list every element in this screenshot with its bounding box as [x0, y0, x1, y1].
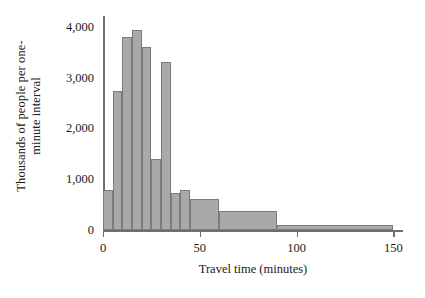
histogram-bar: [161, 62, 171, 230]
histogram-bar: [277, 225, 393, 231]
x-tick-mark: [297, 232, 298, 237]
histogram-bar: [180, 190, 190, 231]
histogram-bar: [151, 159, 161, 230]
y-tick-label: 3,000: [48, 72, 94, 85]
histogram-bar: [113, 91, 123, 231]
y-tick-label-group: 01,0002,0003,0004,000: [48, 0, 94, 298]
x-tick-group: [103, 232, 403, 238]
y-tick-label: 0: [48, 224, 94, 237]
x-tick-label: 100: [287, 241, 306, 255]
y-tick-label: 4,000: [48, 21, 94, 34]
histogram-bar: [219, 211, 277, 230]
x-tick-label: 50: [194, 241, 207, 255]
bar-group: [103, 16, 403, 230]
y-axis-title-line2: minute interval: [29, 77, 44, 155]
y-tick-label: 2,000: [48, 122, 94, 135]
x-tick-label-group: 050100150: [103, 241, 403, 259]
histogram-bar: [122, 37, 132, 230]
x-tick-mark: [103, 232, 104, 237]
y-axis-title-line1: Thousands of people per one-: [14, 40, 29, 191]
y-axis-title: Thousands of people per one- minute inte…: [6, 0, 52, 232]
plot-area: [103, 16, 403, 232]
x-tick-label: 0: [100, 241, 106, 255]
histogram-bar: [190, 199, 219, 231]
x-tick-label: 150: [384, 241, 403, 255]
histogram-bar: [171, 193, 181, 231]
histogram-bar: [142, 47, 152, 230]
histogram-bar: [132, 30, 142, 230]
x-axis-title: Travel time (minutes): [103, 262, 403, 277]
x-tick-mark: [200, 232, 201, 237]
histogram-figure: Thousands of people per one- minute inte…: [0, 0, 425, 298]
x-tick-mark: [393, 232, 394, 237]
y-tick-label: 1,000: [48, 173, 94, 186]
histogram-bar: [103, 190, 113, 231]
